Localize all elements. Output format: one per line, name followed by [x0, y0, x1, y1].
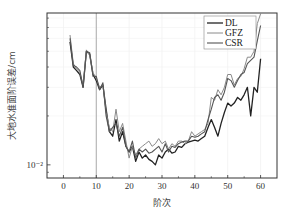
x-tick-label: 10	[92, 181, 102, 191]
x-tick-label: 40	[190, 181, 200, 191]
x-axis-label: 阶次	[153, 197, 171, 208]
series-line-dl	[70, 42, 261, 165]
legend-label-dl: DL	[225, 18, 238, 28]
x-tick-label: 20	[125, 181, 135, 191]
x-tick-label: 50	[223, 181, 233, 191]
legend-label-csr: CSR	[225, 38, 244, 48]
legend: DLGFZCSR	[204, 16, 256, 49]
x-tick-label: 60	[256, 181, 266, 191]
legend-label-gfz: GFZ	[225, 28, 243, 38]
x-tick-label: 0	[61, 181, 66, 191]
y-tick-label: 10⁻²	[27, 160, 44, 170]
x-axis: 0102030405060	[61, 175, 265, 191]
chart: 0102030405060 10⁻² 阶次 大地水准面阶误差/cm DLGFZC…	[0, 0, 291, 214]
x-tick-label: 30	[158, 181, 168, 191]
y-axis-label: 大地水准面阶误差/cm	[6, 51, 17, 140]
